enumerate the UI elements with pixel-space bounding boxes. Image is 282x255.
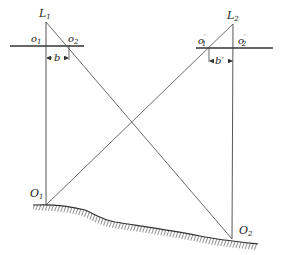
label-O2: O2 [239, 224, 253, 238]
label-b-prime: b′ [215, 55, 224, 66]
right-vertical-L2-O2 [232, 24, 233, 239]
ray-L1-O2 [46, 22, 232, 239]
ground-hatch [33, 205, 258, 250]
ray-L2-O1 [46, 24, 233, 205]
label-O1: O1 [30, 187, 44, 201]
label-o1: o1 [31, 33, 42, 46]
label-o2: o2 [68, 33, 79, 46]
label-b: b [54, 52, 60, 63]
label-o2-prime: o′2 [238, 33, 247, 48]
diagram-stage: L1 L2 o1 o2 o′1 o′2 b b′ O1 O2 [0, 0, 282, 255]
label-o1-prime: o′1 [198, 33, 206, 48]
stereo-geometry-diagram: L1 L2 o1 o2 o′1 o′2 b b′ O1 O2 [0, 0, 282, 255]
label-L1: L1 [38, 7, 51, 21]
label-L2: L2 [226, 9, 239, 23]
